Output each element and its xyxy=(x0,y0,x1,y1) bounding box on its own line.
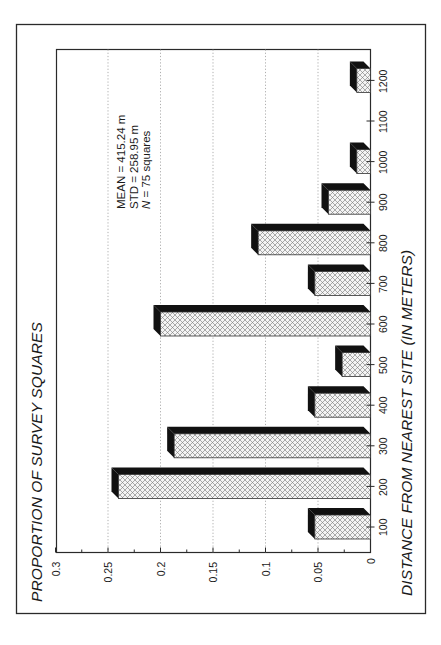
bar-face xyxy=(315,393,371,417)
x-tick-label: 500 xyxy=(377,356,389,374)
bar-face xyxy=(258,231,370,255)
bar-600 xyxy=(154,305,371,336)
bar-chart xyxy=(0,0,441,645)
stats-annotation: MEAN = 415.24 m STD = 258.95 m N = 75 sq… xyxy=(115,115,153,209)
bar-200 xyxy=(112,467,371,498)
x-tick-label: 1100 xyxy=(377,111,389,134)
x-tick-label: 1000 xyxy=(377,150,389,173)
y-tick-label: 0 xyxy=(365,558,377,564)
bar-face xyxy=(315,515,371,539)
bar-1200 xyxy=(350,61,371,92)
y-tick-label: 0.15 xyxy=(207,562,219,582)
y-tick-label: 0.2 xyxy=(155,562,167,577)
bar-face xyxy=(342,353,370,377)
bar-face xyxy=(315,271,371,295)
x-tick-label: 700 xyxy=(377,275,389,293)
bar-face xyxy=(174,434,370,458)
x-tick-label: 300 xyxy=(377,437,389,455)
y-tick-label: 0.05 xyxy=(312,562,324,582)
x-axis-title: DISTANCE FROM NEAREST SITE (IN METERS) xyxy=(398,250,416,596)
stat-std-value: = 258.95 m xyxy=(128,125,140,183)
y-tick-label: 0.25 xyxy=(102,562,114,582)
y-tick-label: 0.3 xyxy=(50,562,62,577)
bar-900 xyxy=(322,183,371,214)
x-tick-label: 600 xyxy=(377,316,389,334)
bar-face xyxy=(161,312,371,336)
x-tick-label: 900 xyxy=(377,194,389,212)
stat-mean: MEAN = 415.24 m xyxy=(115,115,128,209)
bar-face xyxy=(119,474,371,498)
x-tick-label: 1200 xyxy=(377,69,389,92)
stat-std: STD = 258.95 m xyxy=(128,115,141,209)
y-tick-label: 0.1 xyxy=(260,562,272,577)
bar-800 xyxy=(251,224,370,255)
stat-std-label: STD xyxy=(128,186,140,209)
bar-300 xyxy=(167,427,370,458)
stat-n-label: N xyxy=(140,201,152,209)
stat-n-value: = 75 squares xyxy=(140,131,152,198)
x-tick-label: 200 xyxy=(377,478,389,496)
bar-1000 xyxy=(350,143,371,174)
stat-mean-value: = 415.24 m xyxy=(115,115,127,173)
x-tick-label: 400 xyxy=(377,397,389,415)
stat-n: N = 75 squares xyxy=(140,115,153,209)
bar-700 xyxy=(308,264,371,295)
x-tick-label: 800 xyxy=(377,234,389,252)
x-tick-label: 100 xyxy=(377,519,389,537)
y-axis-title: PROPORTION OF SURVEY SQUARES xyxy=(28,322,46,602)
bar-500 xyxy=(335,346,370,377)
bar-400 xyxy=(308,386,371,417)
bar-face xyxy=(329,190,371,214)
bar-100 xyxy=(308,508,371,539)
stat-mean-label: MEAN xyxy=(115,176,127,209)
